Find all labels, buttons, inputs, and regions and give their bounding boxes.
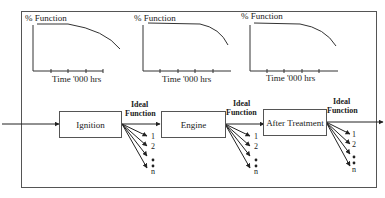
output-1-title-line2: Function: [125, 110, 156, 118]
output-3-item-n: n: [352, 166, 356, 174]
block-engine: Engine: [161, 111, 226, 138]
output-1-item-1: 1: [151, 133, 155, 141]
output-2-title-line2: Function: [226, 109, 257, 117]
chart-3-xlabel: Time '000 hrs: [266, 74, 315, 83]
output-1-item-2: 2: [151, 143, 155, 151]
output-2-title-line1: Ideal: [233, 100, 250, 108]
chart-3-ylabel: % Function: [241, 12, 283, 21]
chart-2-ylabel: % Function: [134, 14, 176, 23]
chart-1: [33, 24, 120, 73]
output-2-item-2: 2: [254, 143, 258, 151]
chart-1-xlabel: Time '000 hrs: [52, 75, 101, 84]
output-3-title-line1: Ideal: [333, 98, 350, 106]
block-ignition-label: Ignition: [76, 120, 105, 130]
chart-2-xlabel: Time '000 hrs: [162, 75, 211, 84]
output-2-item-n: n: [254, 168, 258, 176]
block-engine-label: Engine: [181, 120, 207, 130]
output-3-item-1: 1: [352, 131, 356, 139]
output-3-title-line2: Function: [327, 107, 358, 115]
output-1-title-line1: Ideal: [131, 101, 148, 109]
chart-3: [250, 23, 338, 73]
diagram-lines: [0, 0, 385, 198]
output-2-item-1: 1: [254, 133, 258, 141]
block-after-treatment: After Treatment: [263, 109, 327, 136]
chart-2: [143, 23, 231, 73]
chart-1-ylabel: % Function: [25, 14, 67, 23]
output-1-item-n: n: [151, 168, 155, 176]
output-3-item-2: 2: [352, 141, 356, 149]
block-after-treatment-label: After Treatment: [266, 118, 324, 128]
block-ignition: Ignition: [59, 111, 122, 138]
